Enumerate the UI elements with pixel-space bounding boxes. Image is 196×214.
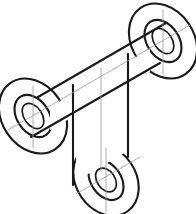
isometric-drawing-canvas: Isometric pictorial of a three-lug brack… — [0, 0, 196, 214]
bracket-isometric-svg: Isometric pictorial of a three-lug brack… — [0, 0, 196, 214]
